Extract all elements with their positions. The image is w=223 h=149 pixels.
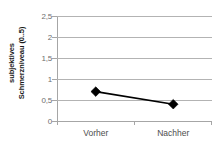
x-tick-label-nachher: Nachher xyxy=(157,128,189,138)
y-axis-tick-labels: 2,5 2 1,5 1 0,5 0 xyxy=(24,0,52,149)
y-tick-label-2: 2 xyxy=(24,33,52,42)
data-point-marker-vorher[interactable] xyxy=(91,87,101,97)
pain-level-line-chart: subjektives Schmerzniveau (0..5) 2,5 2 1… xyxy=(0,0,223,149)
y-tick-label-0: 0 xyxy=(24,117,52,126)
x-tick-mark-center xyxy=(134,121,135,125)
y-tick-label-1-5: 1,5 xyxy=(24,54,52,63)
x-tick-mark-left xyxy=(57,121,58,125)
x-tick-mark-right xyxy=(211,121,212,125)
data-point-marker-nachher[interactable] xyxy=(168,99,178,109)
y-axis-title-line-1: subjektives xyxy=(7,27,17,100)
plot-area xyxy=(57,16,212,121)
series-line xyxy=(96,92,174,105)
y-tick-label-0-5: 0,5 xyxy=(24,96,52,105)
y-tick-label-2-5: 2,5 xyxy=(24,12,52,21)
x-tick-label-vorher: Vorher xyxy=(83,128,108,138)
data-series-group xyxy=(57,16,212,121)
y-tick-label-1: 1 xyxy=(24,75,52,84)
